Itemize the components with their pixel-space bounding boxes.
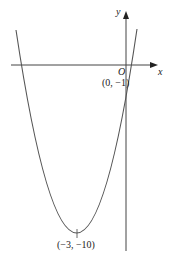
graph-canvas	[0, 0, 169, 259]
vertex-label: (−3, −10)	[57, 240, 95, 250]
x-axis-arrow-icon	[150, 62, 158, 68]
y-axis-arrow-icon	[123, 11, 129, 19]
y-intercept-label: (0, −1)	[102, 78, 129, 88]
origin-label: O	[118, 67, 125, 77]
x-axis-label: x	[158, 67, 162, 77]
y-axis-label: y	[116, 7, 120, 17]
parabola-curve	[16, 29, 137, 233]
